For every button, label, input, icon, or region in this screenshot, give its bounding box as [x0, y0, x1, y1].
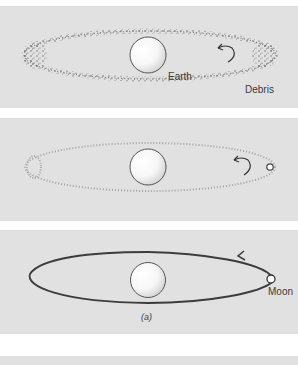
- debris-label: Debris: [245, 85, 274, 95]
- panel-forming-moon: [0, 118, 298, 221]
- orbit-direction-arrow-icon: [238, 251, 245, 260]
- earth-icon: [130, 149, 166, 185]
- earth-label: Earth: [168, 72, 192, 82]
- earth-icon: [130, 37, 166, 73]
- panel-next-cropped: [0, 356, 298, 365]
- moon-icon: [267, 275, 275, 283]
- figure: Earth Debris: [0, 0, 298, 365]
- moon-label: Moon: [268, 287, 293, 297]
- panel-moon-orbit: Moon (a): [0, 230, 298, 334]
- earth-icon: [131, 263, 166, 298]
- forming-moon-icon: [267, 164, 273, 170]
- panel-debris-ring: Earth Debris: [0, 6, 298, 108]
- forming-moon-diagram: [0, 118, 298, 221]
- panel-caption: (a): [141, 313, 152, 322]
